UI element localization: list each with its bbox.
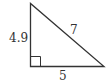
right-angle-marker: [31, 57, 41, 67]
hypotenuse-label: 7: [70, 23, 78, 37]
triangle-diagram: 4.9 7 5: [0, 0, 108, 81]
right-triangle: [31, 4, 105, 67]
horizontal-leg-label: 5: [59, 69, 67, 81]
vertical-leg-label: 4.9: [9, 31, 28, 45]
